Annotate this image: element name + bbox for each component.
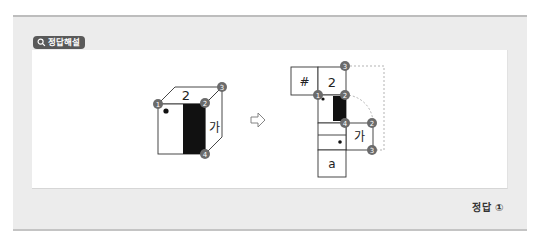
svg-text:1: 1 bbox=[316, 92, 320, 100]
answer-text: 정답 ① bbox=[472, 199, 504, 214]
net-label-a: a bbox=[328, 157, 335, 171]
net-dot-lower bbox=[338, 140, 342, 144]
cube-vertex-1: 1 bbox=[153, 99, 163, 109]
cube-top-label: 2 bbox=[182, 88, 190, 103]
cube-vertex-4: 4 bbox=[200, 149, 210, 159]
net-label-hash: # bbox=[299, 75, 309, 89]
net-label-2: 2 bbox=[328, 75, 336, 90]
net-vertex-3-top: 3 bbox=[340, 61, 350, 71]
svg-text:4: 4 bbox=[343, 120, 348, 128]
svg-text:2: 2 bbox=[370, 120, 374, 128]
right-arrow-outline-icon bbox=[251, 113, 265, 127]
svg-text:3: 3 bbox=[370, 147, 374, 155]
svg-text:1: 1 bbox=[156, 101, 160, 109]
cube-right-label: 가 bbox=[209, 121, 220, 135]
explanation-figure: 2 가 1 2 3 4 # 2 가 a bbox=[0, 0, 540, 244]
net-label-ga: 가 bbox=[354, 130, 365, 144]
cube-vertex-3: 3 bbox=[217, 82, 227, 92]
cube-black-stripe bbox=[183, 104, 205, 154]
net-vertex-3-ga: 3 bbox=[367, 145, 377, 155]
net-vertex-4: 4 bbox=[340, 118, 350, 128]
svg-text:3: 3 bbox=[343, 63, 347, 71]
svg-text:2: 2 bbox=[343, 92, 347, 100]
net-vertex-2-mid: 2 bbox=[340, 90, 350, 100]
net-vertex-1: 1 bbox=[313, 90, 323, 100]
svg-text:3: 3 bbox=[220, 84, 224, 92]
cube-vertex-2: 2 bbox=[200, 98, 210, 108]
net-vertex-2-ga: 2 bbox=[367, 118, 377, 128]
svg-text:2: 2 bbox=[203, 100, 207, 108]
cube-dot bbox=[163, 108, 168, 113]
svg-text:4: 4 bbox=[203, 151, 208, 159]
